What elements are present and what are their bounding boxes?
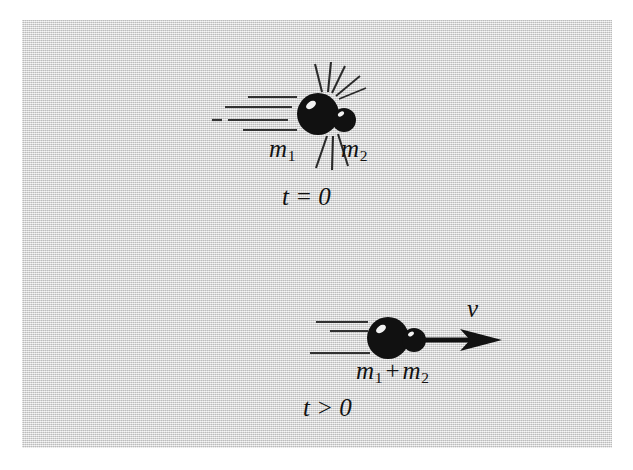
label-mass-1: m1	[269, 136, 295, 164]
label-mass-2: m2	[341, 136, 367, 164]
label-combined-mass: m1+m2	[356, 358, 429, 386]
label-velocity: v	[467, 296, 478, 321]
label-time-after: t > 0	[303, 395, 352, 420]
figure-background-panel	[22, 20, 612, 448]
physics-figure: m1 m2 t = 0 m1+m2 v t > 0	[0, 0, 633, 470]
label-time-zero: t = 0	[282, 184, 331, 209]
